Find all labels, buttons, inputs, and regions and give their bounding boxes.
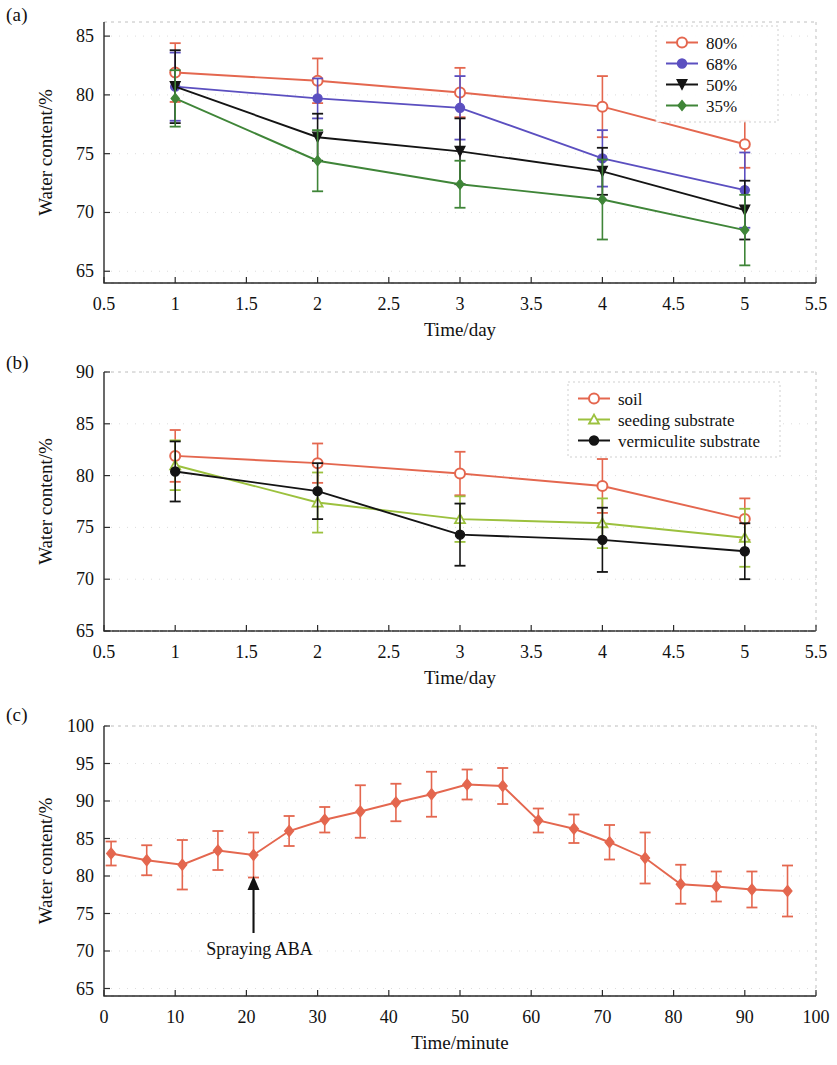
data-point-marker (463, 779, 472, 790)
data-point-marker (641, 853, 650, 864)
legend-label: soil (618, 390, 643, 409)
legend-label: 68% (706, 55, 737, 74)
x-tick-label: 100 (803, 1007, 830, 1027)
x-tick-label: 5.5 (805, 642, 828, 662)
y-tick-label: 75 (76, 144, 94, 164)
legend-label: vermiculite substrate (618, 432, 760, 451)
x-tick-label: 1 (171, 642, 180, 662)
panel-c: (c) 657075808590951000102030405060708090… (0, 700, 837, 1065)
data-point-marker (356, 806, 365, 817)
x-tick-label: 30 (309, 1007, 327, 1027)
data-point-marker (741, 225, 749, 235)
y-tick-label: 85 (76, 829, 94, 849)
data-point-marker (427, 789, 436, 800)
y-tick-label: 65 (76, 261, 94, 281)
y-axis-title-group: Water content/% (35, 438, 56, 565)
data-point-marker (676, 879, 685, 890)
data-point-marker (677, 38, 687, 48)
data-point-marker (589, 394, 599, 404)
data-point-marker (313, 94, 322, 103)
x-axis-title: Time/day (424, 667, 497, 688)
y-tick-label: 75 (76, 904, 94, 924)
y-tick-label: 65 (76, 621, 94, 641)
data-point-marker (455, 469, 465, 479)
legend: 80%68%50%35% (656, 26, 778, 122)
x-tick-label: 90 (736, 1007, 754, 1027)
panel-b-plot: 6570758085900.511.522.533.544.555.5Time/… (0, 348, 837, 688)
data-point-marker (747, 884, 756, 895)
x-tick-label: 3 (456, 642, 465, 662)
x-tick-label: 40 (380, 1007, 398, 1027)
y-tick-label: 100 (67, 716, 94, 736)
x-tick-label: 5.5 (805, 294, 828, 314)
data-point-marker (107, 848, 116, 859)
x-axis-title: Time/minute (411, 1032, 508, 1053)
x-tick-label: 20 (237, 1007, 255, 1027)
data-point-marker (285, 826, 294, 837)
panel-a-plot: 65707580850.511.522.533.544.555.5Time/da… (0, 0, 837, 340)
figure-container: (a) 65707580850.511.522.533.544.555.5Tim… (0, 0, 837, 1065)
y-tick-label: 70 (76, 569, 94, 589)
x-tick-label: 4 (598, 294, 607, 314)
data-point-marker (740, 547, 749, 556)
y-tick-label: 85 (76, 414, 94, 434)
data-point-marker (598, 195, 606, 205)
annotation-label: Spraying ABA (206, 939, 313, 959)
legend-label: seeding substrate (618, 411, 735, 430)
annotation-group: Spraying ABA (206, 876, 313, 959)
data-point-marker (569, 823, 578, 834)
data-point-marker (456, 103, 465, 112)
data-point-marker (313, 487, 322, 496)
panel-b: (b) 6570758085900.511.522.533.544.555.5T… (0, 348, 837, 688)
y-tick-label: 80 (76, 85, 94, 105)
x-tick-label: 1 (171, 294, 180, 314)
data-point-marker (783, 886, 792, 897)
legend-label: 50% (706, 76, 737, 95)
y-axis-title-group: Water content/% (35, 797, 56, 924)
data-point-marker (391, 797, 400, 808)
data-point-marker (605, 837, 614, 848)
x-tick-label: 3.5 (520, 294, 543, 314)
panel-a: (a) 65707580850.511.522.533.544.555.5Tim… (0, 0, 837, 340)
y-tick-label: 70 (76, 202, 94, 222)
x-tick-label: 1.5 (235, 642, 258, 662)
y-axis-title: Water content/% (35, 89, 56, 216)
x-tick-label: 2.5 (378, 294, 401, 314)
data-point-marker (171, 467, 180, 476)
data-point-marker (597, 481, 607, 491)
y-axis-title: Water content/% (35, 797, 56, 924)
y-tick-label: 95 (76, 754, 94, 774)
data-point-marker (590, 436, 599, 445)
data-point-marker (213, 845, 222, 856)
legend-label: 35% (706, 97, 737, 116)
x-tick-label: 2 (313, 294, 322, 314)
x-tick-label: 50 (451, 1007, 469, 1027)
x-tick-label: 5 (740, 642, 749, 662)
y-tick-label: 85 (76, 26, 94, 46)
data-point-marker (456, 530, 465, 539)
data-point-marker (712, 881, 721, 892)
x-tick-label: 0 (100, 1007, 109, 1027)
data-point-marker (320, 814, 329, 825)
x-tick-label: 10 (166, 1007, 184, 1027)
y-tick-label: 80 (76, 866, 94, 886)
x-tick-label: 2 (313, 642, 322, 662)
x-tick-label: 4 (598, 642, 607, 662)
data-point-marker (314, 156, 322, 166)
x-tick-label: 5 (740, 294, 749, 314)
x-axis-title: Time/day (424, 319, 497, 340)
data-point-marker (178, 859, 187, 870)
data-point-marker (142, 855, 151, 866)
x-tick-label: 80 (665, 1007, 683, 1027)
y-tick-label: 90 (76, 362, 94, 382)
x-tick-label: 0.5 (93, 642, 116, 662)
x-tick-label: 4.5 (662, 642, 685, 662)
x-tick-label: 3.5 (520, 642, 543, 662)
y-tick-label: 65 (76, 979, 94, 999)
y-tick-label: 70 (76, 941, 94, 961)
data-point-marker (740, 139, 750, 149)
y-axis-title: Water content/% (35, 438, 56, 565)
x-tick-label: 70 (593, 1007, 611, 1027)
data-point-marker (678, 59, 687, 68)
data-point-marker (598, 535, 607, 544)
